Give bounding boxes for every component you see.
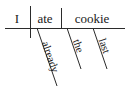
sentence-diagram: I ate cookie already the last bbox=[0, 0, 130, 90]
word-object: cookie bbox=[75, 11, 110, 26]
word-modifier-already: already bbox=[40, 39, 62, 74]
sentence-diagram-canvas: I ate cookie already the last bbox=[0, 0, 130, 90]
word-subject: I bbox=[15, 11, 19, 26]
word-modifier-last: last bbox=[97, 37, 113, 55]
word-modifier-the: the bbox=[71, 37, 87, 54]
word-verb: ate bbox=[37, 11, 52, 26]
